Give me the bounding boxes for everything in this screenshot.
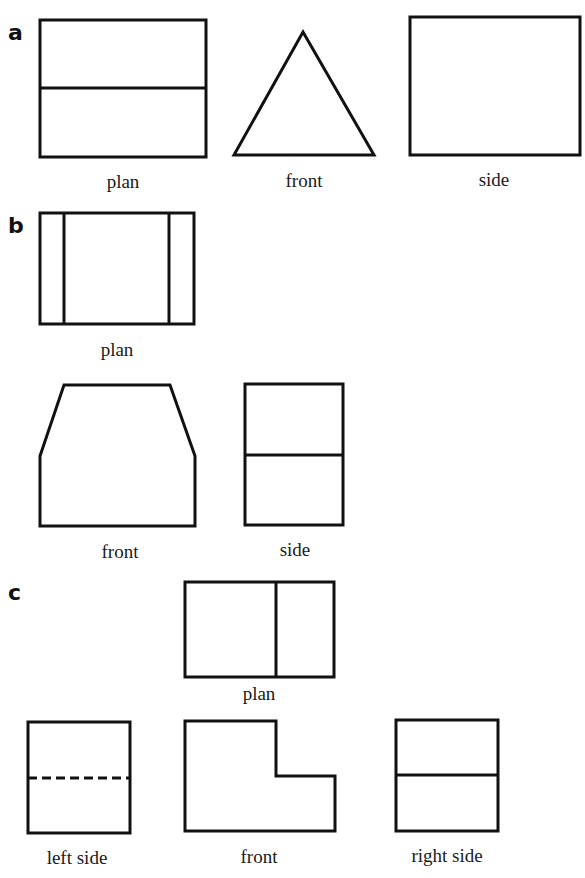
part-c-front: [185, 721, 335, 831]
part-c-left-side-label: left side: [47, 847, 108, 869]
part-c-plan-label: plan: [243, 683, 276, 705]
part-b-label: b: [8, 213, 24, 238]
part-c-left-side: [28, 722, 130, 833]
part-c-front-label: front: [241, 846, 278, 868]
part-a-side: [410, 17, 580, 155]
part-a-front: [234, 32, 374, 155]
part-a-front-label: front: [286, 170, 323, 192]
part-c-label: c: [8, 580, 21, 605]
part-b-front-label: front: [102, 541, 139, 563]
part-b-side-label: side: [280, 539, 311, 561]
part-a-plan: [40, 20, 206, 157]
part-a-plan-label: plan: [107, 171, 140, 193]
part-b-side: [245, 384, 343, 525]
part-a-label: a: [8, 20, 23, 45]
part-b-plan: [40, 213, 194, 324]
part-b-plan-label: plan: [101, 339, 134, 361]
orthographic-drawings: [0, 0, 585, 878]
part-c-right-side: [396, 720, 498, 831]
part-a-side-label: side: [479, 169, 510, 191]
part-c-right-side-label: right side: [411, 845, 482, 867]
part-c-plan: [185, 582, 334, 677]
part-b-front: [40, 385, 195, 526]
